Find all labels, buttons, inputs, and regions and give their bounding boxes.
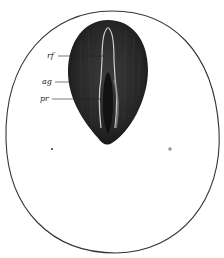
label-rf: rf [47, 52, 54, 60]
mark-left [51, 148, 53, 150]
embryo-illustration [0, 0, 224, 258]
mark-right [169, 148, 171, 150]
label-pr: pr [40, 95, 49, 103]
embryo-figure: rf ag pr [0, 0, 224, 258]
label-ag: ag [42, 78, 52, 86]
